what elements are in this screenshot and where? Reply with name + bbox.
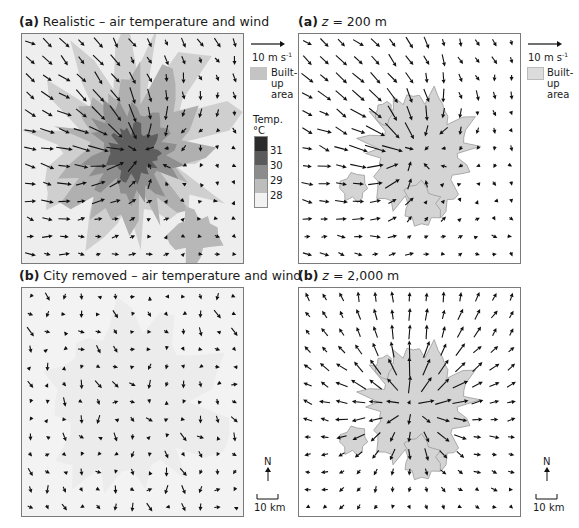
map-wind-200m xyxy=(298,33,521,264)
panel-title-b-right: (b) z = 2,000 m xyxy=(298,268,399,283)
temp-tick-29: 29 xyxy=(270,175,283,186)
temp-tick-31: 31 xyxy=(270,145,283,156)
builtup-label: Built-uparea xyxy=(547,67,573,100)
scale-bar-label: 10 km xyxy=(254,502,285,513)
north-arrow-icon xyxy=(264,467,272,481)
map-city-removed-temperature-wind xyxy=(21,287,244,517)
north-arrow-icon xyxy=(543,467,551,481)
north-label: N xyxy=(264,456,271,467)
temp-legend-title: Temp.°C xyxy=(253,114,283,136)
scale-bar-icon xyxy=(535,494,559,500)
builtup-swatch xyxy=(527,67,544,80)
builtup-swatch xyxy=(250,67,267,80)
panel-title-a-left: (a) Realistic – air temperature and wind xyxy=(19,14,269,29)
wind-scale-label: 10 m s-1 xyxy=(528,49,568,63)
wind-scale-arrow-icon xyxy=(250,40,286,48)
map-realistic-temperature-wind xyxy=(21,33,244,264)
map-wind-2000m xyxy=(298,287,521,517)
temp-tick-30: 30 xyxy=(270,160,283,171)
temperature-colorbar xyxy=(254,136,268,208)
wind-scale-arrow-icon xyxy=(527,40,563,48)
wind-scale-label: 10 m s-1 xyxy=(252,49,292,63)
panel-title-b-left: (b) City removed – air temperature and w… xyxy=(19,268,301,283)
panel-title-a-right: (a) z = 200 m xyxy=(298,14,387,29)
scale-bar-label: 10 km xyxy=(533,502,564,513)
temp-tick-28: 28 xyxy=(270,190,283,201)
builtup-label: Built-uparea xyxy=(271,67,297,100)
north-label: N xyxy=(543,456,550,467)
scale-bar-icon xyxy=(256,494,280,500)
